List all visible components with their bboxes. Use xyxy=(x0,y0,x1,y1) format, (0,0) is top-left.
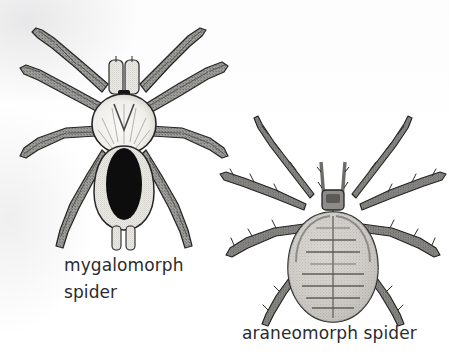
mygalomorph-caption-line-2: spider xyxy=(64,279,184,306)
araneomorph-abdomen xyxy=(288,212,378,322)
mygalomorph-abdomen xyxy=(94,146,154,230)
spider-comparison-figure: mygalomorph spider araneomorph spider xyxy=(0,0,449,354)
mygalomorph-spider-illustration xyxy=(6,8,238,260)
araneomorph-caption-line-1: araneomorph spider xyxy=(242,320,417,347)
araneomorph-spider-illustration xyxy=(218,112,448,328)
mygalomorph-caption-line-1: mygalomorph xyxy=(64,252,184,279)
mygalomorph-pedipalps xyxy=(109,56,139,94)
araneomorph-spider-caption: araneomorph spider xyxy=(242,320,417,347)
mygalomorph-spider-caption: mygalomorph spider xyxy=(64,252,184,306)
mygalomorph-cephalothorax xyxy=(92,94,156,154)
